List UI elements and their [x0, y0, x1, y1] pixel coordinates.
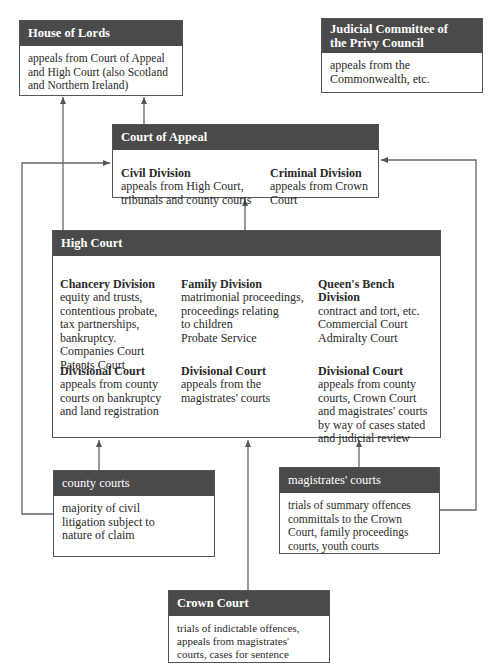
county-courts-box: county courts majority of civil litigati… [53, 470, 215, 557]
house-of-lords-title: House of Lords [20, 21, 182, 46]
crown-court-title: Crown Court [169, 591, 329, 616]
family-division-text: matrimonial proceedings, proceedings rel… [181, 290, 304, 345]
magistrates-courts-title: magistrates' courts [280, 468, 439, 493]
civil-division-heading: Civil Division [121, 167, 251, 181]
divisional-court-family-heading: Divisional Court [181, 365, 270, 379]
divisional-court-chancery: Divisional Courtappeals from county cour… [60, 351, 161, 419]
privy-council-title: Judicial Committee of the Privy Council [322, 19, 482, 53]
house-of-lords-box: House of Lords appeals from Court of App… [19, 20, 183, 96]
court-of-appeal-title: Court of Appeal [113, 125, 378, 150]
county-courts-text: majority of civil litigation subject to … [54, 496, 214, 549]
divisional-court-chancery-text: appeals from county courts on bankruptcy… [60, 377, 161, 418]
court-of-appeal-box: Court of Appeal Civil Divisionappeals fr… [112, 124, 379, 198]
crown-court-text: trials of indictable offences, appeals f… [169, 616, 329, 667]
family-division: Family Divisionmatrimonial proceedings, … [181, 264, 304, 345]
divisional-court-qb: Divisional Courtappeals from county cour… [318, 351, 427, 446]
criminal-division-text: appeals from Crown Court [270, 179, 368, 207]
divisional-court-qb-text: appeals from county courts, Crown Court … [318, 377, 427, 445]
house-of-lords-text: appeals from Court of Appeal and High Co… [20, 46, 182, 99]
criminal-division: Criminal Divisionappeals from Crown Cour… [270, 153, 368, 207]
chancery-division-heading: Chancery Division [60, 278, 157, 292]
civil-division: Civil Divisionappeals from High Court, t… [121, 153, 251, 207]
queens-bench-division-heading: Queen's Bench Division [318, 278, 420, 305]
magistrates-courts-text: trials of summary offences committals to… [280, 493, 439, 559]
high-court-title: High Court [53, 231, 440, 256]
county-courts-title: county courts [54, 471, 214, 496]
privy-council-text: appeals from the Commonwealth, etc. [322, 53, 482, 92]
privy-council-box: Judicial Committee of the Privy Council … [321, 18, 483, 93]
criminal-division-heading: Criminal Division [270, 167, 368, 181]
magistrates-courts-box: magistrates' courts trials of summary of… [279, 467, 440, 554]
high-court-box: High Court Chancery Divisionequity and t… [52, 230, 441, 438]
family-division-heading: Family Division [181, 278, 304, 292]
queens-bench-division-text: contract and tort, etc. Commercial Court… [318, 304, 420, 345]
crown-court-box: Crown Court trials of indictable offence… [168, 590, 330, 663]
civil-division-text: appeals from High Court, tribunals and c… [121, 179, 251, 207]
divisional-court-qb-heading: Divisional Court [318, 365, 427, 379]
divisional-court-chancery-heading: Divisional Court [60, 365, 161, 379]
queens-bench-division: Queen's Bench Divisioncontract and tort,… [318, 264, 420, 345]
divisional-court-family: Divisional Courtappeals from the magistr… [181, 351, 270, 405]
divisional-court-family-text: appeals from the magistrates' courts [181, 377, 270, 405]
